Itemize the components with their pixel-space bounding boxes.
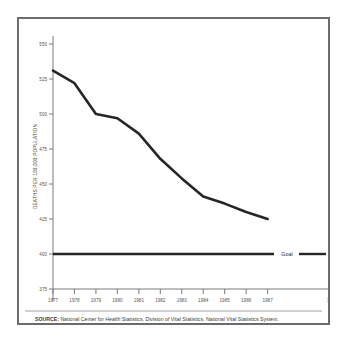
- source-body: National Center for Health Statistics, D…: [60, 316, 278, 322]
- data-series-line: [53, 71, 268, 219]
- source-note: SOURCE: National Center for Health Stati…: [35, 316, 279, 322]
- x-tick-label: 1984: [198, 298, 209, 303]
- x-tick-label: 1983: [177, 298, 188, 303]
- x-tick-label: 1987: [262, 298, 273, 303]
- y-tick-label: 550: [39, 42, 47, 47]
- y-tick-label: 500: [39, 112, 47, 117]
- y-tick-label: 475: [39, 147, 47, 152]
- goal-label: Goal: [281, 251, 292, 257]
- y-tick-label: 425: [39, 217, 47, 222]
- x-tick-label: 1980: [112, 298, 123, 303]
- line-chart: 5505255004754504254003751977197819791980…: [19, 19, 328, 323]
- y-axis-title: DEATHS PER 100,000 POPULATION: [33, 124, 38, 210]
- source-label: SOURCE:: [35, 316, 60, 322]
- chart-plot-area: 5505255004754504254003751977197819791980…: [19, 19, 328, 323]
- x-tick-label: 1982: [155, 298, 166, 303]
- y-tick-label: 400: [39, 252, 47, 257]
- y-tick-label: 450: [39, 182, 47, 187]
- y-tick-label: 525: [39, 77, 47, 82]
- x-tick-label: 1981: [134, 298, 145, 303]
- x-tick-label: 1979: [91, 298, 102, 303]
- x-tick-label: 1977: [48, 298, 59, 303]
- x-tick-label: 1986: [241, 298, 252, 303]
- x-tick-label: 1978: [69, 298, 80, 303]
- y-tick-label: 375: [39, 287, 47, 292]
- x-tick-label: 1985: [220, 298, 231, 303]
- chart-figure-frame: 5505255004754504254003751977197819791980…: [17, 17, 330, 325]
- x-tick-label: 1990: [327, 298, 328, 303]
